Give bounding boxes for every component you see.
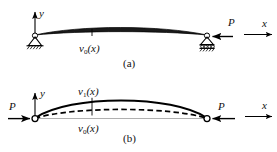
panel-b-load-label-left: P [9,101,16,112]
panel-b-y-axis-label: y [40,88,45,99]
panel-b-v1-label: v1(x) [78,82,99,99]
panel-b-left-pin [32,116,38,122]
panel-b [8,93,272,122]
panel-a-load-label: P [228,17,235,28]
panel-b-x-axis-label: x [262,100,267,111]
panel-a-pin-support [27,33,44,49]
panel-b-right-pin [204,116,210,122]
panel-a-y-axis-label: y [39,8,44,19]
panel-a-v0-arg: (x) [87,42,99,54]
panel-a-v0-label: v0(x) [79,39,100,56]
panel-b-v0-arg: (x) [86,122,98,134]
panel-b-caption: (b) [123,133,136,144]
panel-a-caption: (a) [123,58,135,69]
panel-b-curve-v1 [35,100,207,118]
panel-b-v1-arg: (x) [86,85,98,97]
panel-b-v0-label: v0(x) [78,119,99,136]
panel-a-roller-support [200,33,215,51]
panel-b-load-label-right: P [218,101,225,112]
beam-column-figure: y x P v0(x) (a) y x P P v1(x) v0(x) (b) [0,0,277,152]
panel-a-x-axis-label: x [262,18,267,29]
panel-a [27,12,273,51]
panel-a-beam [35,28,207,36]
panel-b-curve-v0 [35,109,207,118]
figure-svg [0,0,277,152]
